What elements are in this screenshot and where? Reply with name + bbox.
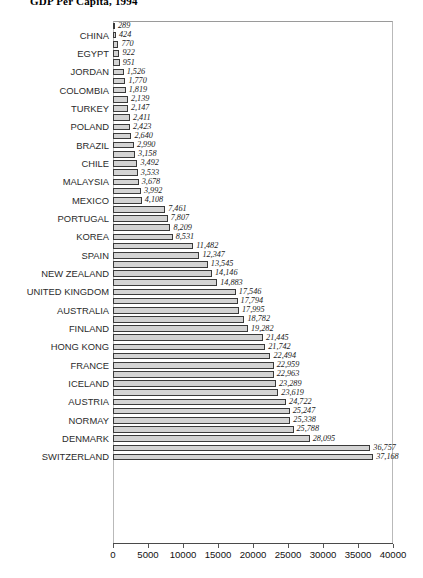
- x-axis-tick-label: 40000: [380, 549, 407, 560]
- x-axis-tick: [323, 544, 324, 548]
- bar-value-label: 8,531: [176, 232, 194, 241]
- bar-row: POLAND2,423: [0, 122, 423, 131]
- category-label: CHILE: [81, 159, 109, 168]
- bar: [113, 270, 212, 277]
- bar-row: FRANCE22,959: [0, 361, 423, 370]
- category-label: SWITZERLAND: [42, 452, 109, 461]
- bar: [113, 215, 168, 222]
- bar-row: 2,411: [0, 113, 423, 122]
- bar: [113, 426, 294, 433]
- bar: [113, 417, 290, 424]
- bar: [113, 50, 119, 57]
- bar: [113, 399, 286, 406]
- x-axis-tick-label: 35000: [345, 549, 372, 560]
- bar: [113, 252, 199, 259]
- bar: [113, 160, 137, 167]
- category-label: FRANCE: [70, 361, 109, 370]
- x-axis-tick: [393, 544, 394, 548]
- category-label: UNITED KINGDOM: [27, 287, 109, 296]
- bar-value-label: 3,992: [144, 186, 162, 195]
- bar: [113, 353, 270, 360]
- bar: [113, 289, 236, 296]
- bar: [113, 243, 193, 250]
- bar-row: 18,782: [0, 315, 423, 324]
- category-label: JORDAN: [70, 67, 109, 76]
- bar-value-label: 7,807: [171, 213, 189, 222]
- category-label: PORTUGAL: [58, 214, 109, 223]
- bar-value-label: 14,146: [215, 268, 238, 277]
- bar-value-label: 25,338: [293, 415, 316, 424]
- bar-value-label: 14,883: [220, 278, 243, 287]
- bar-row: UNITED KINGDOM17,546: [0, 287, 423, 296]
- bar-row: FINLAND19,282: [0, 324, 423, 333]
- x-axis-tick: [113, 544, 114, 548]
- bar-value-label: 23,289: [279, 379, 302, 388]
- bar-row: 2,139: [0, 95, 423, 104]
- bar-value-label: 951: [123, 58, 135, 67]
- bar-row: DENMARK28,095: [0, 434, 423, 443]
- category-label: ICELAND: [68, 379, 109, 388]
- category-label: DENMARK: [62, 434, 109, 443]
- bar-value-label: 24,722: [289, 397, 312, 406]
- bar-row: 951: [0, 58, 423, 67]
- bar: [113, 454, 373, 461]
- category-label: FINLAND: [69, 324, 109, 333]
- bar-value-label: 22,963: [277, 369, 300, 378]
- bar-value-label: 37,168: [376, 452, 399, 461]
- bar-value-label: 8,209: [173, 223, 191, 232]
- category-label: HONG KONG: [51, 342, 109, 351]
- bar: [113, 234, 173, 241]
- bar-row: SWITZERLAND37,168: [0, 452, 423, 461]
- bar: [113, 133, 131, 140]
- bar-row: CHILE3,492: [0, 159, 423, 168]
- bar: [113, 307, 239, 314]
- bar: [113, 188, 141, 195]
- category-label: MALAYSIA: [63, 177, 109, 186]
- bar: [113, 197, 142, 204]
- x-axis-tick-label: 25000: [275, 549, 302, 560]
- x-axis-tick-label: 10000: [170, 549, 197, 560]
- bar-row: COLOMBIA1,819: [0, 86, 423, 95]
- bar: [113, 371, 274, 378]
- bar: [113, 344, 265, 351]
- x-axis-tick: [183, 544, 184, 548]
- bar: [113, 105, 128, 112]
- category-label: POLAND: [70, 122, 109, 131]
- category-label: SPAIN: [82, 251, 109, 260]
- bar-value-label: 25,788: [297, 424, 320, 433]
- bar: [113, 389, 278, 396]
- x-axis-tick: [288, 544, 289, 548]
- bar-row: EGYPT922: [0, 49, 423, 58]
- bar: [113, 380, 276, 387]
- bar: [113, 224, 170, 231]
- bar-row: PORTUGAL7,807: [0, 214, 423, 223]
- bar-value-label: 22,494: [273, 351, 296, 360]
- bar-row: 25,247: [0, 407, 423, 416]
- bar-row: 770: [0, 40, 423, 49]
- bar: [113, 69, 124, 76]
- bar: [113, 325, 248, 332]
- bar-row: JORDAN1,526: [0, 67, 423, 76]
- category-label: EGYPT: [77, 49, 109, 58]
- bar: [113, 59, 120, 66]
- x-axis-tick: [253, 544, 254, 548]
- bar-value-label: 25,247: [293, 406, 316, 415]
- bar-row: NORMAY25,338: [0, 416, 423, 425]
- bar-value-label: 3,492: [140, 158, 158, 167]
- bar: [113, 96, 128, 103]
- category-label: AUSTRIA: [68, 397, 109, 406]
- bar-value-label: 2,990: [137, 140, 155, 149]
- bar-value-label: 21,742: [268, 342, 291, 351]
- bar-value-label: 2,423: [133, 122, 151, 131]
- category-label: COLOMBIA: [60, 86, 110, 95]
- x-axis-tick-label: 30000: [310, 549, 337, 560]
- bar-value-label: 2,147: [131, 103, 149, 112]
- bar-row: 23,619: [0, 388, 423, 397]
- category-label: NORMAY: [69, 416, 109, 425]
- bar-row: 8,209: [0, 223, 423, 232]
- bar-value-label: 922: [122, 48, 134, 57]
- x-axis-tick-label: 20000: [240, 549, 267, 560]
- bar-value-label: 36,757: [373, 443, 396, 452]
- bar: [113, 142, 134, 149]
- category-label: CHINA: [80, 31, 109, 40]
